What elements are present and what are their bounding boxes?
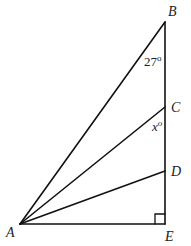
angle-B-degree: o [157,53,162,63]
segment-AD [20,171,165,224]
angle-label-B: 27o [144,53,162,69]
segment-AC [20,107,165,224]
angle-label-C: xo [151,118,163,134]
label-D: D [170,164,181,179]
angle-C-degree: o [158,118,163,128]
segment-AB [20,22,165,224]
angle-B-value: 27 [144,54,158,69]
label-C: C [171,100,181,115]
right-angle-marker [155,214,165,224]
label-B: B [168,4,177,19]
label-E: E [164,229,174,244]
geometry-diagram: B C D A E 27o xo [0,0,191,246]
label-A: A [5,225,15,240]
